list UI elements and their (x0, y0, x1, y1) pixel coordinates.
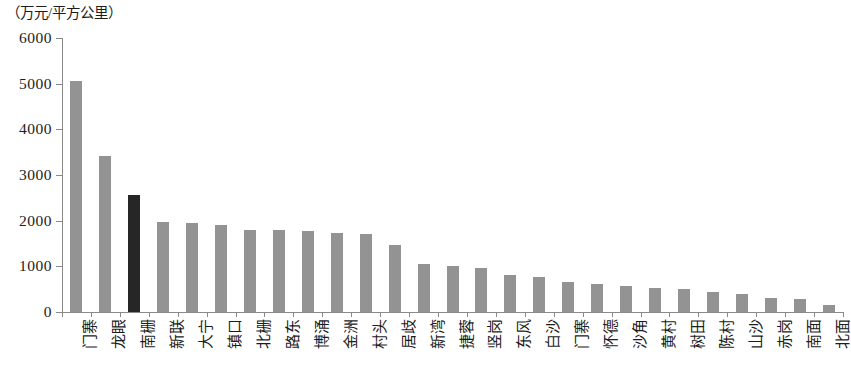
bar (186, 223, 198, 312)
y-axis-tick-label-text: 0 (2, 304, 52, 320)
x-axis-category-label: 白沙 (546, 318, 561, 349)
bar (504, 275, 516, 312)
bar (389, 245, 401, 312)
x-axis-tick (409, 312, 410, 317)
x-axis-category-label: 南面 (807, 318, 822, 349)
x-axis-category-label: 金洲 (344, 318, 359, 349)
y-axis-tick-label: 1000 (0, 258, 52, 274)
x-axis-category-label: 陈村 (720, 318, 735, 349)
x-axis-tick (438, 312, 439, 317)
bar (360, 234, 372, 312)
bar (331, 233, 343, 312)
bar (128, 195, 140, 312)
x-axis-tick (322, 312, 323, 317)
y-axis-tick (56, 175, 62, 176)
x-axis-tick (467, 312, 468, 317)
x-axis-category-label: 山沙 (749, 318, 764, 349)
x-axis-tick (264, 312, 265, 317)
bar (823, 305, 835, 312)
x-axis-category-label: 博涌 (315, 318, 330, 349)
y-axis-line (62, 38, 63, 313)
y-axis-tick-label: 2000 (0, 213, 52, 229)
y-axis-tick-label-text: 1000 (2, 258, 52, 274)
x-axis-tick (612, 312, 613, 317)
x-axis-category-label: 竖岗 (488, 318, 503, 349)
x-axis-tick (669, 312, 670, 317)
bar (649, 288, 661, 312)
y-axis-tick (56, 266, 62, 267)
y-axis-tick-label-text: 2000 (2, 213, 52, 229)
bar (215, 225, 227, 312)
bar (302, 231, 314, 312)
bar (707, 292, 719, 312)
x-axis-tick (149, 312, 150, 317)
x-axis-category-label: 路东 (286, 318, 301, 349)
x-axis-category-label: 镇口 (228, 318, 243, 349)
x-axis-tick (554, 312, 555, 317)
bar (678, 289, 690, 312)
x-axis-category-label: 龙眼 (112, 318, 127, 349)
y-axis-tick-label: 4000 (0, 121, 52, 137)
bar (447, 266, 459, 312)
bar (533, 277, 545, 312)
x-axis-tick (207, 312, 208, 317)
x-axis-category-label: 门寨 (575, 318, 590, 349)
bar (736, 294, 748, 312)
x-axis-tick (698, 312, 699, 317)
y-axis-tick-label-text: 4000 (2, 121, 52, 137)
bar (591, 284, 603, 312)
x-axis-tick (236, 312, 237, 317)
y-axis-tick (56, 129, 62, 130)
x-axis-tick (120, 312, 121, 317)
x-axis-tick (380, 312, 381, 317)
bar-chart: （万元/平方公里） 6000500040003000200010000 门寨龙眼… (0, 0, 851, 366)
bar (562, 282, 574, 312)
bar (244, 230, 256, 312)
bar (794, 299, 806, 312)
bar (475, 268, 487, 312)
x-axis-tick (178, 312, 179, 317)
x-axis-tick (843, 312, 844, 317)
x-axis-category-label: 赤岗 (778, 318, 793, 349)
x-axis-tick (293, 312, 294, 317)
x-axis-category-label: 新联 (170, 318, 185, 349)
y-axis-tick-label-text: 5000 (2, 76, 52, 92)
x-axis-category-label: 东风 (517, 318, 532, 349)
x-axis-tick (62, 312, 63, 317)
x-axis-tick (351, 312, 352, 317)
y-axis-tick-label: 0 (0, 304, 52, 320)
x-axis-category-label: 大宁 (199, 318, 214, 349)
x-axis-category-label: 怀德 (604, 318, 619, 349)
x-axis-category-label: 沙角 (633, 318, 648, 349)
bar (620, 286, 632, 312)
x-axis-category-label: 北面 (836, 318, 851, 349)
y-axis-tick-label: 3000 (0, 167, 52, 183)
y-axis-tick (56, 84, 62, 85)
bar (157, 222, 169, 312)
x-axis-tick (727, 312, 728, 317)
x-axis-category-label: 门寨 (83, 318, 98, 349)
x-axis-tick (583, 312, 584, 317)
x-axis-category-label: 新湾 (431, 318, 446, 349)
x-axis-tick (91, 312, 92, 317)
y-axis-tick-label: 6000 (0, 30, 52, 46)
x-axis-category-label: 树田 (691, 318, 706, 349)
x-axis-category-label: 村头 (373, 318, 388, 349)
y-axis-unit-label: （万元/平方公里） (6, 4, 122, 22)
bar (273, 230, 285, 312)
x-axis-tick (496, 312, 497, 317)
bar (418, 264, 430, 312)
bar (70, 81, 82, 312)
x-axis-tick (814, 312, 815, 317)
bar (765, 298, 777, 312)
y-axis-tick-label-text: 6000 (2, 30, 52, 46)
y-axis-tick-label-text: 3000 (2, 167, 52, 183)
y-axis-tick (56, 221, 62, 222)
x-axis-tick (525, 312, 526, 317)
x-axis-category-label: 捷蓉 (460, 318, 475, 349)
x-axis-category-label: 居歧 (402, 318, 417, 349)
bar (99, 156, 111, 312)
x-axis-category-label: 北栅 (257, 318, 272, 349)
y-axis-tick-label: 5000 (0, 76, 52, 92)
x-axis-tick (756, 312, 757, 317)
